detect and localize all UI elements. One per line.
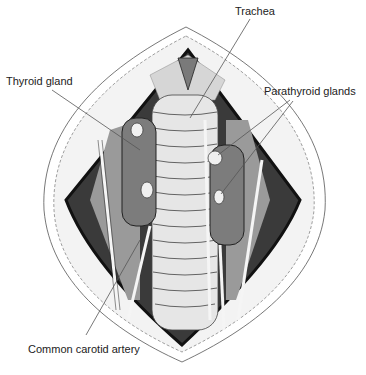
- parathyroid-gland-lower-left: [141, 182, 153, 198]
- thyroidectomy-diagram: [0, 0, 366, 375]
- label-common-carotid-artery: Common carotid artery: [28, 343, 140, 355]
- label-thyroid-gland: Thyroid gland: [6, 75, 73, 87]
- parathyroid-gland-upper-left: [131, 123, 143, 137]
- label-parathyroid-glands: Parathyroid glands: [264, 85, 356, 97]
- label-trachea: Trachea: [235, 5, 275, 17]
